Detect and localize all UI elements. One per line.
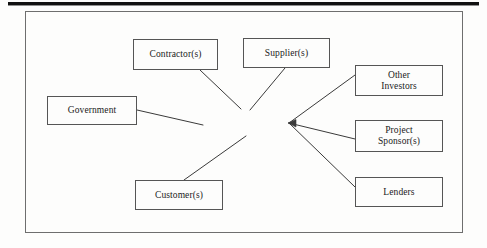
node-customer-label: Customer(s) [155,190,203,201]
edge-other-investors-line [289,75,355,123]
edge-customer-line [184,136,246,180]
node-government[interactable]: Government [47,96,137,125]
edge-supplier-line [250,68,285,110]
figure-page: Contractor(s) Supplier(s) Government Cus… [0,0,487,248]
node-contractor-label: Contractor(s) [150,49,202,60]
node-lenders-label: Lenders [383,187,414,198]
node-lenders[interactable]: Lenders [355,177,443,207]
node-customer[interactable]: Customer(s) [135,180,223,210]
edge-project-sponsor-line [289,123,355,139]
node-government-label: Government [68,105,117,116]
node-other-investors[interactable]: Other Investors [355,65,443,96]
node-contractor[interactable]: Contractor(s) [133,39,218,70]
node-supplier-label: Supplier(s) [265,48,308,59]
edge-contractor-line [200,70,241,109]
node-other-investors-label: Other Investors [381,70,417,92]
node-supplier[interactable]: Supplier(s) [243,38,330,68]
node-project-sponsor[interactable]: Project Sponsor(s) [355,120,443,152]
edge-lenders-line [289,123,355,187]
node-project-sponsor-label: Project Sponsor(s) [378,125,420,147]
edge-government-line [137,110,203,125]
